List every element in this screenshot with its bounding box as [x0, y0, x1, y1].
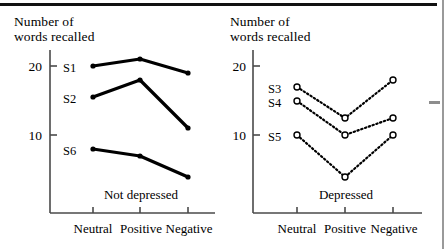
data-point-s6-neutral [90, 146, 95, 151]
y-tick-label-10-right: 10 [212, 129, 246, 143]
series-label-s6: S6 [63, 145, 76, 158]
y-tick-label-20-left: 20 [8, 60, 42, 74]
series-line-s5 [297, 135, 393, 177]
y-tick-label-10-left: 10 [8, 129, 42, 143]
data-point-s3-negative [390, 77, 396, 83]
data-point-s5-neutral [294, 132, 300, 138]
panel-caption-depressed: Depressed [300, 188, 392, 201]
series-label-s2: S2 [63, 93, 76, 106]
data-point-s1-negative [185, 70, 190, 75]
plot-area-left [0, 0, 222, 249]
data-point-s2-positive [137, 77, 142, 82]
series-line-s2 [93, 80, 188, 128]
series-label-s4: S4 [268, 97, 281, 110]
chart-panel-not-depressed: Number of words recalled [0, 0, 222, 249]
data-point-s5-positive [342, 174, 348, 180]
x-category-label-negative-left: Negative [157, 222, 221, 235]
data-point-s3-positive [342, 115, 348, 121]
chart-panel-depressed: Number of words recalled [222, 0, 444, 249]
data-point-s4-negative [390, 115, 396, 121]
series-line-s3 [297, 80, 393, 118]
series-label-s5: S5 [268, 131, 281, 144]
data-point-s6-positive [137, 153, 142, 158]
data-point-s1-neutral [90, 63, 95, 68]
y-tick-label-20-right: 20 [212, 60, 246, 74]
data-point-s6-negative [185, 174, 190, 179]
plot-area-right [222, 0, 444, 249]
data-point-s4-positive [342, 132, 348, 138]
data-point-s2-neutral [90, 94, 95, 99]
data-point-s2-negative [185, 125, 190, 130]
series-line-s6 [93, 149, 188, 177]
figure-page: Number of words recalled [0, 0, 444, 249]
series-label-s1: S1 [63, 62, 76, 75]
data-point-s5-negative [390, 132, 396, 138]
series-label-s3: S3 [268, 83, 281, 96]
x-category-label-negative-right: Negative [362, 222, 426, 235]
panel-caption-not-depressed: Not depressed [86, 188, 196, 201]
data-point-s3-neutral [294, 84, 300, 90]
data-point-s1-positive [137, 56, 142, 61]
data-point-s4-neutral [294, 98, 300, 104]
